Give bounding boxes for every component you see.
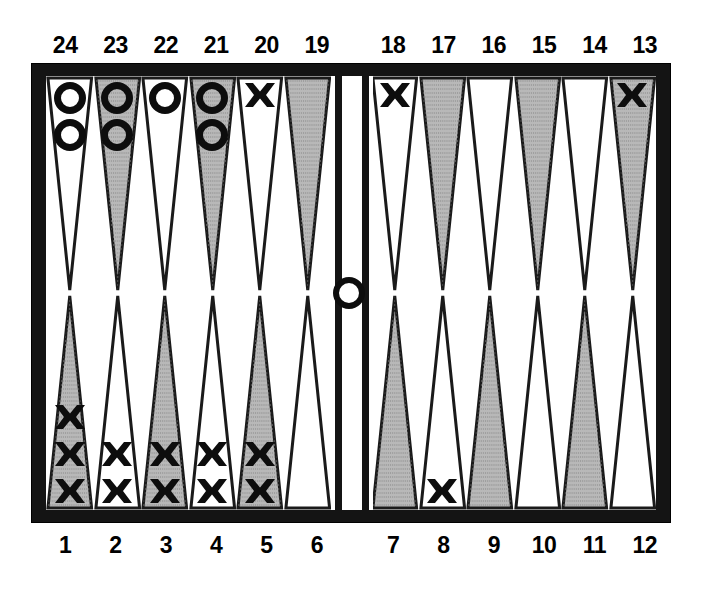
point-number-23: 23 (90, 30, 140, 60)
point-1[interactable] (46, 292, 94, 510)
point-number-3: 3 (141, 530, 191, 560)
point-4[interactable] (189, 292, 237, 510)
board-frame (31, 63, 671, 523)
checker-x-point-13[interactable] (616, 82, 648, 108)
checker-x-point-4[interactable] (196, 441, 228, 467)
checker-o-point-23[interactable] (101, 119, 133, 151)
checker-x-point-3[interactable] (149, 478, 181, 504)
point-number-6: 6 (292, 530, 342, 560)
point-3[interactable] (141, 292, 189, 510)
point-12[interactable] (609, 292, 657, 510)
point-13[interactable] (609, 76, 657, 294)
checker-x-point-1[interactable] (54, 441, 86, 467)
point-18[interactable] (371, 76, 419, 294)
point-number-1: 1 (40, 530, 90, 560)
checker-x-point-2[interactable] (101, 478, 133, 504)
point-number-20: 20 (241, 30, 291, 60)
point-number-11: 11 (569, 530, 619, 560)
point-number-17: 17 (418, 30, 468, 60)
checker-x-point-5[interactable] (244, 478, 276, 504)
bottom-point-numbers: 123456789101112 (40, 530, 670, 560)
point-23[interactable] (94, 76, 142, 294)
backgammon-diagram: 242322212019181716151413 123456789101112 (0, 0, 707, 589)
point-number-16: 16 (469, 30, 519, 60)
point-number-14: 14 (569, 30, 619, 60)
point-number-8: 8 (418, 530, 468, 560)
quadrant-top-left (46, 76, 331, 294)
point-17[interactable] (419, 76, 467, 294)
point-number-9: 9 (469, 530, 519, 560)
quadrant-bottom-left (46, 292, 331, 510)
quadrant-bottom-right (371, 292, 656, 510)
quadrant-top-right (371, 76, 656, 294)
point-10[interactable] (514, 292, 562, 510)
checker-x-point-2[interactable] (101, 441, 133, 467)
point-5[interactable] (236, 292, 284, 510)
point-7[interactable] (371, 292, 419, 510)
point-number-18: 18 (368, 30, 418, 60)
checker-x-point-20[interactable] (244, 82, 276, 108)
number-row-bar-gap (342, 30, 368, 60)
checker-x-point-1[interactable] (54, 404, 86, 430)
point-number-10: 10 (519, 530, 569, 560)
checker-x-point-8[interactable] (426, 478, 458, 504)
checker-x-point-1[interactable] (54, 478, 86, 504)
point-14[interactable] (561, 76, 609, 294)
number-row-bar-gap (342, 530, 368, 560)
point-2[interactable] (94, 292, 142, 510)
point-number-2: 2 (90, 530, 140, 560)
board-playing-field (46, 76, 656, 510)
checker-o-point-24[interactable] (54, 119, 86, 151)
checker-o-point-21[interactable] (196, 82, 228, 114)
point-number-21: 21 (191, 30, 241, 60)
point-number-13: 13 (620, 30, 670, 60)
top-point-numbers: 242322212019181716151413 (40, 30, 670, 60)
checker-x-point-4[interactable] (196, 478, 228, 504)
bar[interactable] (331, 76, 373, 510)
point-number-19: 19 (292, 30, 342, 60)
point-8[interactable] (419, 292, 467, 510)
bar-checker-o[interactable] (333, 277, 365, 309)
point-22[interactable] (141, 76, 189, 294)
checker-o-point-22[interactable] (149, 82, 181, 114)
checker-o-point-24[interactable] (54, 82, 86, 114)
point-number-24: 24 (40, 30, 90, 60)
point-21[interactable] (189, 76, 237, 294)
point-number-15: 15 (519, 30, 569, 60)
point-6[interactable] (284, 292, 332, 510)
point-number-5: 5 (241, 530, 291, 560)
point-number-7: 7 (368, 530, 418, 560)
point-number-4: 4 (191, 530, 241, 560)
checker-x-point-18[interactable] (379, 82, 411, 108)
point-16[interactable] (466, 76, 514, 294)
checker-o-point-21[interactable] (196, 119, 228, 151)
checker-x-point-5[interactable] (244, 441, 276, 467)
point-15[interactable] (514, 76, 562, 294)
point-number-22: 22 (141, 30, 191, 60)
point-11[interactable] (561, 292, 609, 510)
checker-x-point-3[interactable] (149, 441, 181, 467)
point-9[interactable] (466, 292, 514, 510)
point-24[interactable] (46, 76, 94, 294)
point-19[interactable] (284, 76, 332, 294)
point-number-12: 12 (620, 530, 670, 560)
checker-o-point-23[interactable] (101, 82, 133, 114)
point-20[interactable] (236, 76, 284, 294)
